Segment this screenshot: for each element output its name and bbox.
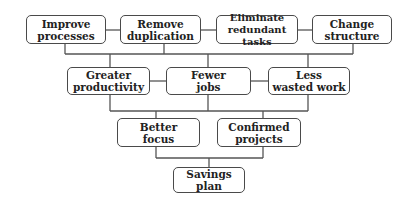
node-less-wasted-work: Lesswasted work bbox=[268, 67, 350, 95]
node-text: Better bbox=[140, 121, 177, 133]
node-savings-plan: Savings plan bbox=[173, 167, 245, 193]
node-fewer-jobs: Fewerjobs bbox=[166, 67, 251, 95]
node-improve-processes: Improveprocesses bbox=[26, 15, 106, 44]
diagram-canvas: Improveprocesses Removeduplication Elimi… bbox=[0, 0, 418, 218]
node-text: Improve bbox=[37, 18, 94, 30]
node-eliminate-redundant-tasks: Eliminateredundant tasks bbox=[216, 15, 298, 44]
node-text: Less bbox=[272, 69, 345, 81]
node-confirmed-projects: Confirmedprojects bbox=[217, 118, 301, 147]
node-text: focus bbox=[140, 133, 177, 145]
node-text: Confirmed bbox=[228, 121, 289, 133]
node-text: jobs bbox=[191, 81, 226, 93]
node-text: structure bbox=[324, 30, 379, 42]
node-text: processes bbox=[37, 30, 94, 42]
node-text: redundant tasks bbox=[219, 24, 295, 48]
node-text: Greater bbox=[73, 69, 144, 81]
node-change-structure: Changestructure bbox=[312, 15, 392, 44]
node-text: Remove bbox=[127, 18, 194, 30]
node-text: productivity bbox=[73, 81, 144, 93]
node-text: Eliminate bbox=[219, 12, 295, 24]
node-text: Fewer bbox=[191, 69, 226, 81]
node-text: Change bbox=[324, 18, 379, 30]
node-text: Savings plan bbox=[176, 168, 242, 192]
node-remove-duplication: Removeduplication bbox=[120, 15, 201, 44]
node-text: duplication bbox=[127, 30, 194, 42]
node-text: wasted work bbox=[272, 81, 345, 93]
node-text: projects bbox=[228, 133, 289, 145]
node-greater-productivity: Greaterproductivity bbox=[67, 67, 150, 95]
node-better-focus: Betterfocus bbox=[117, 118, 200, 147]
